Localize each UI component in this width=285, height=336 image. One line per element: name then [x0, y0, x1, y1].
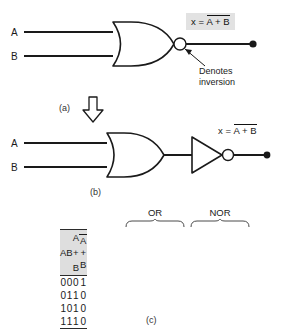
- cell-or: 1: [73, 289, 79, 302]
- down-arrow-icon: [82, 96, 106, 124]
- caption-c: (c): [146, 316, 157, 325]
- inversion-annotation-line1: Denotes: [199, 66, 235, 77]
- formula-b-overlined: A + B: [234, 124, 257, 136]
- diagram-a-nor-gate-drawing: [0, 0, 285, 100]
- diagram-b-output-terminal-dot: [264, 152, 271, 159]
- table-row: 1 1 1 0: [60, 315, 87, 329]
- caption-b: (b): [90, 188, 101, 197]
- table-row: 1 0 1 0: [60, 302, 87, 315]
- cell-a: 0: [60, 276, 66, 290]
- cell-b: 1: [66, 315, 72, 329]
- diagram-a: A B x = A + B Denotes inversion: [0, 0, 285, 100]
- table-row: 0 1 1 0: [60, 289, 87, 302]
- figure-root: A B x = A + B Denotes inversion: [0, 0, 285, 336]
- cell-b: 1: [66, 289, 72, 302]
- cell-b: 0: [66, 276, 72, 290]
- diagram-b-output-formula: x = A + B: [218, 124, 257, 136]
- inversion-annotation: Denotes inversion: [199, 66, 235, 88]
- inverter-bubble-icon: [223, 150, 234, 161]
- cell-a: 1: [60, 302, 66, 315]
- truth-table: A B A + B A + B 0 0 0 1 0 1: [60, 229, 87, 329]
- diagram-b: A B x = A + B: [0, 125, 285, 185]
- table-row: 0 0 0 1: [60, 276, 87, 290]
- diagram-a-output-formula: x = A + B: [186, 13, 235, 30]
- cell-nor: 0: [79, 302, 87, 315]
- header-nor: A + B: [79, 230, 87, 276]
- formula-b-prefix: x =: [218, 125, 234, 136]
- formula-prefix: x =: [191, 16, 207, 27]
- brace-or-icon: [124, 219, 186, 228]
- output-terminal-dot: [249, 40, 256, 47]
- inversion-annotation-line2: inversion: [199, 77, 235, 88]
- cell-b: 0: [66, 302, 72, 315]
- cell-a: 0: [60, 289, 66, 302]
- group-label-or: OR: [126, 208, 184, 218]
- cell-or: 1: [73, 302, 79, 315]
- truth-table-header-row: A B A + B A + B: [60, 230, 87, 276]
- cell-nor: 1: [79, 276, 87, 290]
- group-label-nor: NOR: [191, 208, 249, 218]
- cell-nor: 0: [79, 289, 87, 302]
- cell-a: 1: [60, 315, 66, 329]
- header-nor-overlined: A + B: [79, 234, 87, 271]
- brace-nor-icon: [189, 219, 251, 228]
- cell-or: 0: [73, 276, 79, 290]
- formula-overlined: A + B: [207, 15, 230, 27]
- cell-or: 1: [73, 315, 79, 329]
- caption-a: (a): [59, 104, 70, 113]
- inversion-bubble-icon: [174, 38, 186, 50]
- cell-nor: 0: [79, 315, 87, 329]
- inverter-triangle-icon: [192, 137, 222, 173]
